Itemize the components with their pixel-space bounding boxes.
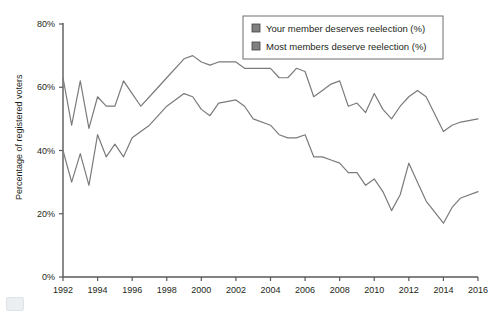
y-tick-label: 0% bbox=[42, 272, 55, 282]
x-tick-label: 1994 bbox=[88, 285, 108, 295]
x-tick-label: 1996 bbox=[122, 285, 142, 295]
y-tick-label: 20% bbox=[37, 209, 55, 219]
corner-artifact bbox=[6, 297, 24, 311]
line-chart: 0%20%40%60%80% 1992199419961998200020022… bbox=[0, 0, 496, 311]
x-tick-label: 2000 bbox=[191, 285, 211, 295]
x-tick-label: 2004 bbox=[260, 285, 280, 295]
x-tick-label: 2010 bbox=[364, 285, 384, 295]
chart-container: 0%20%40%60%80% 1992199419961998200020022… bbox=[0, 0, 496, 311]
legend-label-0: Your member deserves reelection (%) bbox=[266, 23, 425, 34]
y-axis-title: Percentage of registered voters bbox=[14, 74, 24, 200]
y-tick-label: 80% bbox=[37, 19, 55, 29]
legend-swatch-0 bbox=[252, 24, 260, 32]
x-tick-label: 2016 bbox=[468, 285, 488, 295]
y-tick-label: 40% bbox=[37, 146, 55, 156]
x-tick-label: 1992 bbox=[53, 285, 73, 295]
legend-label-1: Most members deserve reelection (%) bbox=[266, 41, 427, 52]
legend-swatch-1 bbox=[252, 42, 260, 50]
x-tick-label: 2008 bbox=[330, 285, 350, 295]
x-tick-label: 2014 bbox=[433, 285, 453, 295]
chart-legend: Your member deserves reelection (%)Most … bbox=[243, 16, 443, 59]
x-tick-label: 2006 bbox=[295, 285, 315, 295]
x-tick-label: 2002 bbox=[226, 285, 246, 295]
x-tick-label: 2012 bbox=[399, 285, 419, 295]
y-tick-label: 60% bbox=[37, 82, 55, 92]
x-tick-label: 1998 bbox=[157, 285, 177, 295]
